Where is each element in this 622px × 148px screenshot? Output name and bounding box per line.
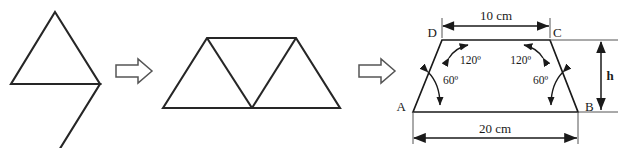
trapezoid2-divider-left [207,38,252,108]
diagram-canvas: 10 cm 20 cm h 120º 120º [0,0,622,148]
geometry-diagram: 10 cm 20 cm h 120º 120º [0,0,622,148]
angle-label-a: 60º [443,74,459,86]
vertex-label-b: B [585,99,594,114]
trapezoid3-outline [413,40,578,112]
angle-arc-b [551,72,563,105]
shape-rhombus [11,12,100,148]
transform-arrow-1-icon [116,59,152,83]
vertex-label-a: A [397,99,407,114]
angle-arc-a [428,72,440,105]
dimension-label-height: h [606,68,614,83]
angle-label-c: 120º [510,54,531,66]
angle-label-d: 120º [460,54,481,66]
vertex-label-c: C [553,25,562,40]
vertex-label-d: D [428,25,437,40]
angle-label-b: 60º [533,74,549,86]
shape-labelled-trapezoid: 10 cm 20 cm h 120º 120º [397,8,618,144]
shape-trapezoid-three-triangles [163,38,340,108]
trapezoid2-outline [163,38,340,108]
transform-arrow-2-icon [359,59,395,83]
rhombus-lower-triangle [11,84,100,148]
dimension-label-top: 10 cm [480,8,512,23]
trapezoid2-divider-right [252,38,296,108]
dimension-label-bottom: 20 cm [479,121,511,136]
rhombus-upper-triangle [11,12,100,84]
